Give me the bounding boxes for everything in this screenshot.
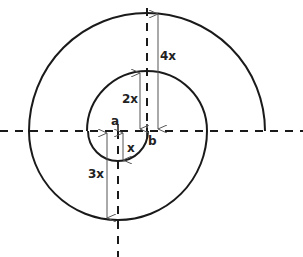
label-4x: 4x — [160, 49, 176, 63]
spiral-diagram: a b x 2x 3x 4x — [0, 0, 303, 257]
label-2x: 2x — [122, 92, 138, 106]
label-a: a — [111, 114, 119, 128]
label-3x: 3x — [88, 167, 104, 181]
label-b: b — [148, 134, 157, 148]
label-x: x — [127, 141, 135, 155]
